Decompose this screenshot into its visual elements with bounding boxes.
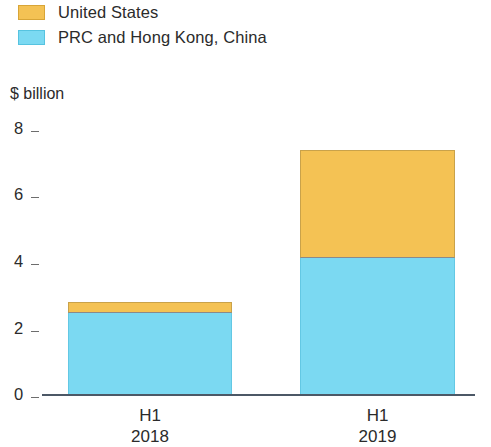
bar-segment-prc-hong-kong-2018 [68, 313, 232, 394]
y-axis-tick-8: 8 [14, 118, 58, 138]
y-axis-tick-6: 6 [14, 184, 58, 204]
x-axis-category-2018: H1 2018 [68, 405, 232, 447]
x-axis-category-2018-line1: H1 [68, 405, 232, 426]
x-axis-category-2019: H1 2019 [300, 405, 455, 447]
y-axis-tick-dash [31, 131, 39, 133]
y-axis-tick-dash [31, 197, 39, 199]
x-axis-category-2019-line2: 2019 [300, 426, 455, 447]
x-axis-category-2018-line2: 2018 [68, 426, 232, 447]
bar-segment-united-states-2019 [300, 150, 455, 258]
y-axis-tick-dash [31, 264, 39, 266]
x-axis-category-2019-line1: H1 [300, 405, 455, 426]
y-axis-tick-2: 2 [14, 318, 58, 338]
y-axis-tick-dash [31, 331, 39, 333]
y-axis-tick-4: 4 [14, 251, 58, 271]
bar-segment-prc-hong-kong-2019 [300, 258, 455, 394]
bar-h1-2019 [300, 150, 455, 394]
bar-segment-united-states-2018 [68, 302, 232, 313]
x-axis-baseline [42, 394, 475, 396]
y-axis-tick-dash [31, 397, 39, 399]
chart-plot-area: 8 6 4 2 0 H1 2018 H1 2019 [0, 0, 491, 447]
bar-h1-2018 [68, 302, 232, 394]
